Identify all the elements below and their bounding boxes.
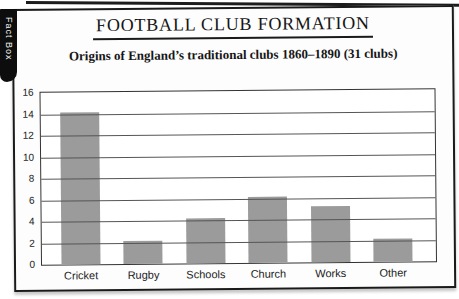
plot-area: 0246810121416CricketRugbySchoolsChurchWo… xyxy=(39,88,437,265)
fact-box-tab-label: Fact Box xyxy=(4,9,14,82)
gridline-12 xyxy=(41,132,435,136)
category-label-works: Works xyxy=(315,267,346,279)
y-axis-label-6: 6 xyxy=(14,194,34,205)
y-axis-label-0: 0 xyxy=(15,259,35,270)
gridline-6 xyxy=(41,197,435,201)
fact-box-panel: FOOTBALL CLUB FORMATION Origins of Engla… xyxy=(12,5,456,292)
y-axis-label-8: 8 xyxy=(14,173,34,184)
chart-subtitle: Origins of England’s traditional clubs 1… xyxy=(14,45,452,65)
fact-box-tab: Fact Box xyxy=(0,9,17,82)
category-label-cricket: Cricket xyxy=(64,269,98,281)
y-axis-label-12: 12 xyxy=(14,130,34,141)
bar-rugby xyxy=(124,240,163,264)
gridline-8 xyxy=(41,175,435,179)
category-label-rugby: Rugby xyxy=(128,269,160,281)
category-label-other: Other xyxy=(379,266,407,278)
page-title: FOOTBALL CLUB FORMATION xyxy=(14,12,452,37)
y-axis-label-16: 16 xyxy=(13,87,33,98)
gridline-4 xyxy=(42,218,436,222)
category-label-schools: Schools xyxy=(186,268,225,280)
y-axis-label-10: 10 xyxy=(14,151,34,162)
bar-other xyxy=(373,238,412,262)
bar-church xyxy=(248,196,288,263)
y-axis-label-14: 14 xyxy=(14,108,34,119)
gridline-10 xyxy=(41,154,435,158)
y-axis-label-2: 2 xyxy=(15,237,35,248)
category-label-church: Church xyxy=(251,268,287,280)
y-axis-label-4: 4 xyxy=(15,216,35,227)
bar-works xyxy=(311,206,350,262)
title-underline xyxy=(93,36,373,40)
gridline-14 xyxy=(41,111,435,115)
